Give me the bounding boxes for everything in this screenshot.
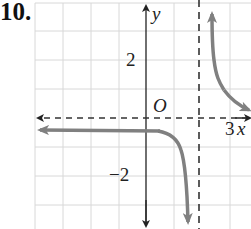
x-tick-label-3: 3 [225, 118, 235, 139]
y-axis-label: y [150, 3, 161, 24]
origin-label: O [153, 95, 167, 116]
grid [35, 3, 251, 229]
curve-left-tail [40, 130, 160, 131]
curve-right-tail [224, 90, 249, 110]
y-tick-label-2: 2 [126, 49, 136, 70]
graph: y 2 O −2 3 x [0, 0, 251, 229]
x-axis-label: x [236, 118, 246, 139]
y-tick-label-neg2: −2 [109, 164, 129, 185]
curve-right-branch [212, 14, 224, 90]
